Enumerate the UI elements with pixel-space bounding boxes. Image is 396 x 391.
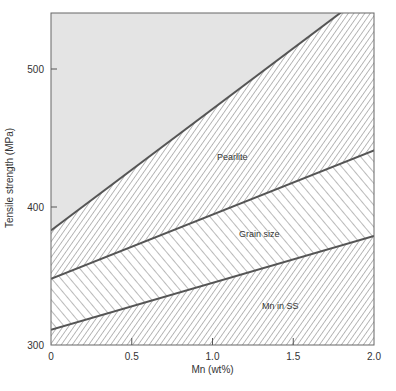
mn-in-ss-label: Mn in SS	[262, 301, 299, 311]
plot-area	[51, 0, 374, 345]
x-axis-label: Mn (wt%)	[191, 364, 233, 375]
y-axis-label: Tensile strength (MPa)	[4, 128, 15, 228]
x-tick-0: 0	[48, 351, 54, 362]
grain-size-label: Grain size	[239, 229, 280, 239]
chart: 500 400 300 Tensile strength (MPa) 0 0.5…	[0, 0, 396, 391]
y-axis: 500 400 300 Tensile strength (MPa)	[4, 64, 57, 351]
x-tick-1-5: 1.5	[286, 351, 300, 362]
y-tick-500: 500	[27, 64, 44, 75]
x-tick-2-0: 2.0	[367, 351, 381, 362]
pearlite-label: Pearlite	[217, 152, 248, 162]
x-tick-1-0: 1.0	[206, 351, 220, 362]
y-tick-400: 400	[27, 202, 44, 213]
x-tick-0-5: 0.5	[125, 351, 139, 362]
y-tick-300: 300	[27, 340, 44, 351]
